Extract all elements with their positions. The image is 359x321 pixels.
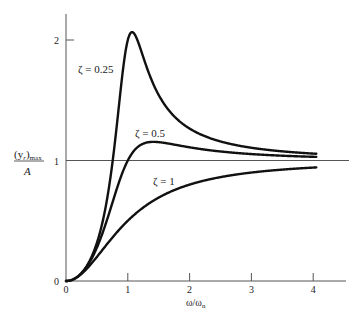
x-label-sub: n: [202, 302, 206, 310]
x-label-main: ω/ω: [186, 297, 202, 308]
svg-text:(yr)max: (yr)max: [14, 148, 42, 162]
x-tick-label: 2: [187, 284, 192, 295]
y-tick-label: 1: [54, 156, 59, 167]
y-axis-label: (yr)max A: [14, 148, 44, 177]
x-tick-label: 0: [64, 284, 69, 295]
x-tick-label: 4: [311, 284, 316, 295]
curve-1: [66, 167, 316, 281]
y-label-denominator: A: [23, 165, 31, 177]
x-tick-label: 1: [125, 284, 130, 295]
x-axis-label: ω/ωn: [186, 297, 206, 310]
label-zeta-025: ζ = 0.25: [78, 63, 114, 76]
x-tick-label: 3: [249, 284, 254, 295]
y-tick-label: 0: [54, 276, 59, 287]
chart: 01234012 ζ = 0.25 ζ = 0.5 ζ = 1 (yr)max …: [0, 0, 359, 321]
label-zeta-05: ζ = 0.5: [135, 127, 166, 140]
y-tick-label: 2: [54, 35, 59, 46]
curve-0_5: [66, 142, 316, 281]
label-zeta-1: ζ = 1: [153, 175, 175, 188]
